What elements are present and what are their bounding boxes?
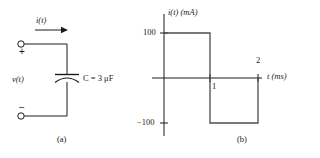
panel-b-caption: (b) xyxy=(237,135,247,144)
waveform-plot-svg xyxy=(150,0,320,158)
y-tick-label-100: 100 xyxy=(143,28,156,37)
capacitor-plate-bottom xyxy=(55,78,79,82)
capacitor-value-label: C = 3 μF xyxy=(83,74,113,83)
figure-container: i(t) + − v(t) C = 3 μF (a) xyxy=(0,0,320,158)
terminal-minus-sign: − xyxy=(19,103,25,113)
voltage-label: v(t) xyxy=(12,75,24,84)
panel-a-caption: (a) xyxy=(57,135,66,144)
x-axis-label: t (ms) xyxy=(267,72,287,81)
terminal-plus-sign: + xyxy=(19,47,25,57)
current-arrow-head xyxy=(61,27,68,33)
x-tick-label-1: 1 xyxy=(212,82,216,91)
current-label: i(t) xyxy=(36,16,46,25)
panel-waveform-plot: i(t) (mA) t (ms) 100 −100 1 2 (b) xyxy=(150,0,320,158)
y-tick-label-neg100: −100 xyxy=(137,118,155,127)
x-tick-label-2: 2 xyxy=(256,56,260,65)
y-axis-label: i(t) (mA) xyxy=(168,8,198,17)
panel-circuit-diagram: i(t) + − v(t) C = 3 μF (a) xyxy=(0,0,150,158)
terminal-bottom-circle xyxy=(18,113,24,119)
